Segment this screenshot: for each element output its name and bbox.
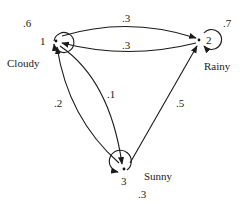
- node-number-2: 2: [206, 34, 212, 46]
- markov-diagram: 1 Cloudy .6 2 Rainy .7 3 Sunny .3 .3 .3 …: [0, 0, 247, 211]
- prob-cloudy-to-rainy: .3: [122, 12, 131, 24]
- prob-cloudy-to-sunny: .1: [107, 88, 115, 100]
- node-label-rainy: Rainy: [204, 60, 231, 72]
- self-prob-sunny: .3: [138, 188, 147, 200]
- edge-cloudy-to-sunny: [60, 46, 122, 164]
- edge-cloudy-to-rainy: [62, 26, 196, 38]
- self-prob-cloudy: .6: [23, 17, 32, 29]
- node-rainy: 2 Rainy .7: [198, 17, 232, 72]
- prob-sunny-to-cloudy: .2: [54, 97, 62, 109]
- prob-rainy-to-cloudy: .3: [122, 39, 131, 51]
- node-number-3: 3: [121, 175, 127, 187]
- self-prob-rainy: .7: [223, 17, 232, 29]
- prob-sunny-to-rainy: .5: [176, 97, 185, 109]
- node-number-1: 1: [40, 35, 46, 47]
- node-label-sunny: Sunny: [144, 170, 173, 182]
- edge-sunny-to-rainy: [130, 46, 197, 163]
- node-sunny: 3 Sunny .3: [109, 150, 172, 200]
- edge-sunny-to-cloudy: [57, 47, 119, 163]
- node-label-cloudy: Cloudy: [7, 57, 40, 69]
